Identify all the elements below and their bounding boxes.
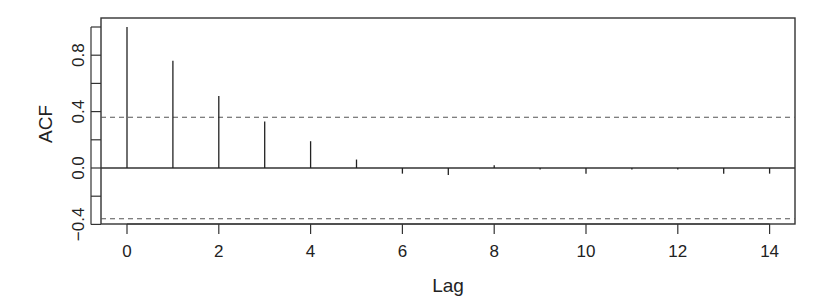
x-tick-label: 12 <box>668 242 687 261</box>
plot-frame <box>101 18 795 224</box>
x-tick-label: 2 <box>214 242 223 261</box>
y-tick-label: 0.0 <box>69 156 88 180</box>
x-tick-label: 6 <box>398 242 407 261</box>
x-tick-label: 10 <box>577 242 596 261</box>
x-tick-label: 14 <box>760 242 779 261</box>
y-tick-label: 0.4 <box>69 100 88 124</box>
x-tick-label: 8 <box>489 242 498 261</box>
y-tick-label: 0.8 <box>69 43 88 67</box>
y-tick-label: −0.4 <box>69 208 88 242</box>
x-tick-label: 0 <box>122 242 131 261</box>
y-axis-title: ACF <box>35 105 56 143</box>
x-tick-label: 4 <box>306 242 315 261</box>
x-axis-title: Lag <box>432 275 464 296</box>
plot-area: −0.40.00.40.802468101214 <box>69 18 795 261</box>
acf-chart: −0.40.00.40.802468101214 Lag ACF <box>0 0 827 307</box>
